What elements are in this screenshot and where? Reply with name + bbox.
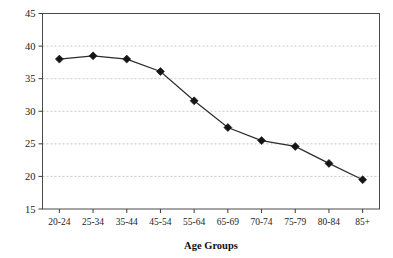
y-axis-labels-group: 15202530354045 — [25, 8, 36, 215]
x-axis-tick-label: 25-34 — [82, 217, 104, 227]
y-axis-tick-label: 35 — [25, 73, 36, 84]
x-axis-tick-label: 45-54 — [149, 217, 171, 227]
chart-container: 15202530354045 20-2425-3435-4445-5455-64… — [0, 0, 393, 258]
x-axis-tick-label: 35-44 — [116, 217, 138, 227]
x-axis-tick-label: 85+ — [355, 217, 370, 227]
line-chart: 15202530354045 20-2425-3435-4445-5455-64… — [0, 0, 393, 258]
data-point-marker — [359, 176, 367, 184]
y-axis-tick-label: 15 — [25, 204, 36, 215]
x-axis-tick-label: 80-84 — [318, 217, 340, 227]
y-axis-tick-label: 30 — [25, 106, 36, 117]
gridlines-group — [43, 46, 380, 176]
y-axis-tick-label: 25 — [25, 138, 36, 149]
x-axis-tick-label: 65-69 — [217, 217, 239, 227]
data-point-marker — [89, 52, 97, 60]
x-axis-tick-label: 75-79 — [284, 217, 306, 227]
y-axis-tick-label: 20 — [25, 171, 36, 182]
x-axis-tick-label: 20-24 — [48, 217, 70, 227]
x-axis-labels-group: 20-2425-3435-4445-5455-6465-6970-7475-79… — [48, 217, 370, 227]
x-axis-tick-label: 70-74 — [250, 217, 272, 227]
x-axis-tick-label: 55-64 — [183, 217, 205, 227]
x-axis-ticks-group — [59, 209, 362, 213]
x-axis-title: Age Groups — [184, 240, 238, 251]
data-markers-group — [55, 52, 366, 184]
data-point-marker — [258, 137, 266, 145]
data-point-marker — [325, 159, 333, 167]
data-point-marker — [123, 55, 131, 63]
y-axis-tick-label: 40 — [25, 41, 36, 52]
data-line-series — [59, 56, 362, 180]
y-axis-tick-label: 45 — [25, 8, 36, 19]
data-point-marker — [55, 55, 63, 63]
y-axis-ticks-group — [39, 14, 43, 210]
